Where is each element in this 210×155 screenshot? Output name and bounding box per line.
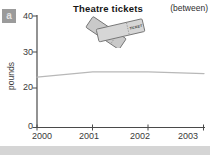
- exercise-chart-panel: a Theatre tickets (between) TICKET pound…: [0, 0, 210, 155]
- page-edge-strip: [0, 146, 210, 155]
- x-tick-label-2000: 2000: [24, 131, 60, 141]
- x-tick-label-2003: 2003: [170, 131, 206, 141]
- price-line: [37, 72, 204, 77]
- x-tick-label-2002: 2002: [122, 131, 158, 141]
- y-tick-marks: [33, 16, 38, 128]
- x-tick-label-2001: 2001: [71, 131, 107, 141]
